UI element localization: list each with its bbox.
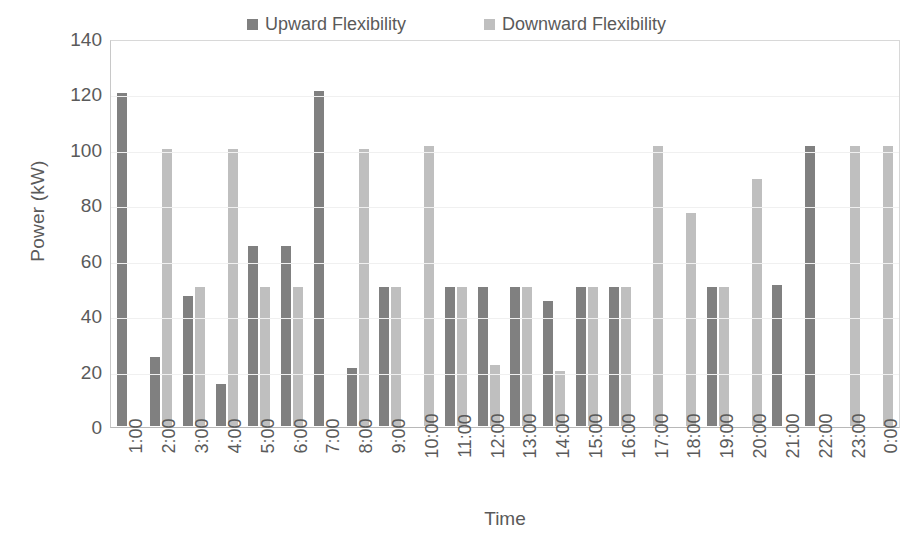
- bar-group: [210, 41, 243, 426]
- bar-groups: [112, 41, 898, 426]
- x-axis-tick-label: 6:00: [292, 418, 310, 453]
- legend-label: Downward Flexibility: [502, 14, 666, 35]
- bar: [248, 246, 258, 426]
- x-axis-tick-cell: 16:00: [603, 430, 636, 500]
- x-axis-tick-cell: 7:00: [308, 430, 341, 500]
- y-axis-tick-label: 100: [56, 140, 102, 162]
- bar: [379, 287, 389, 426]
- x-axis-tick-cell: 3:00: [177, 430, 210, 500]
- bar: [621, 287, 631, 426]
- bar-group: [145, 41, 178, 426]
- bar-group: [374, 41, 407, 426]
- bar: [478, 287, 488, 426]
- x-axis-tick-cell: 23:00: [833, 430, 866, 500]
- x-axis-tick-cell: 22:00: [800, 430, 833, 500]
- bar-group: [702, 41, 735, 426]
- bar: [391, 287, 401, 426]
- bar-group: [505, 41, 538, 426]
- bar: [510, 287, 520, 426]
- x-axis-tick-cell: 19:00: [702, 430, 735, 500]
- bar: [228, 149, 238, 426]
- legend-label: Upward Flexibility: [265, 14, 406, 35]
- bar-group: [636, 41, 669, 426]
- x-axis-tick-cell: 5:00: [242, 430, 275, 500]
- bar: [117, 93, 127, 426]
- x-axis-tick-cell: 20:00: [735, 430, 768, 500]
- bar-group: [538, 41, 571, 426]
- gridline: [111, 374, 899, 375]
- x-axis-tick-cell: 12:00: [472, 430, 505, 500]
- y-axis-tick-label: 140: [56, 29, 102, 51]
- bar: [686, 213, 696, 426]
- x-axis-tick-label: 21:00: [784, 413, 802, 458]
- bar: [195, 287, 205, 426]
- bar-group: [833, 41, 866, 426]
- y-axis-title: Power (kW): [27, 111, 49, 311]
- bar: [457, 287, 467, 426]
- x-axis-tick-cell: 21:00: [768, 430, 801, 500]
- bar: [314, 91, 324, 426]
- x-axis-tick-label: 9:00: [390, 418, 408, 453]
- x-axis-tick-label: 23:00: [850, 413, 868, 458]
- bar: [772, 285, 782, 426]
- x-axis-tick-cell: 18:00: [669, 430, 702, 500]
- x-axis-tick-label: 15:00: [587, 413, 605, 458]
- y-axis-tick-label: 40: [56, 306, 102, 328]
- y-axis-tick-label: 0: [56, 417, 102, 439]
- bar: [609, 287, 619, 426]
- x-axis-tick-cell: 4:00: [209, 430, 242, 500]
- gridline: [111, 263, 899, 264]
- x-axis-tick-label: 18:00: [685, 413, 703, 458]
- x-axis-tick-label: 22:00: [817, 413, 835, 458]
- bar: [260, 287, 270, 426]
- bar: [576, 287, 586, 426]
- bar: [883, 146, 893, 426]
- x-axis-tick-cell: 1:00: [111, 430, 144, 500]
- x-axis-tick-cell: 17:00: [636, 430, 669, 500]
- bar: [162, 149, 172, 426]
- x-axis-tick-label: 0:00: [882, 418, 900, 453]
- bar: [850, 146, 860, 426]
- x-axis-tick-cell: 15:00: [571, 430, 604, 500]
- bar-group: [865, 41, 898, 426]
- bar-group: [800, 41, 833, 426]
- gridline: [111, 318, 899, 319]
- y-axis-tick-label: 80: [56, 195, 102, 217]
- bar: [445, 287, 455, 426]
- bar: [805, 146, 815, 426]
- y-axis-tick-label: 60: [56, 251, 102, 273]
- bar: [281, 246, 291, 426]
- bar-group: [571, 41, 604, 426]
- gridline: [111, 207, 899, 208]
- x-axis-tick-label: 17:00: [653, 413, 671, 458]
- x-axis-tick-label: 4:00: [226, 418, 244, 453]
- legend-swatch-icon: [484, 19, 495, 30]
- x-axis-tick-cell: 13:00: [505, 430, 538, 500]
- x-axis-tick-cell: 11:00: [439, 430, 472, 500]
- bar-group: [112, 41, 145, 426]
- y-axis-tick-labels: 020406080100120140: [56, 40, 102, 428]
- x-axis-tick-label: 3:00: [193, 418, 211, 453]
- x-axis-tick-cell: 10:00: [406, 430, 439, 500]
- x-axis-tick-label: 7:00: [324, 418, 342, 453]
- x-axis-tick-label: 16:00: [620, 413, 638, 458]
- legend-item: Upward Flexibility: [247, 14, 406, 35]
- x-axis-tick-cell: 0:00: [866, 430, 899, 500]
- x-axis-title: Time: [110, 508, 900, 530]
- bar: [543, 301, 553, 426]
- bar-group: [243, 41, 276, 426]
- x-axis-tick-label: 2:00: [160, 418, 178, 453]
- x-axis-tick-cell: 2:00: [144, 430, 177, 500]
- x-axis-tick-label: 19:00: [718, 413, 736, 458]
- legend-swatch-icon: [247, 19, 258, 30]
- y-axis-tick-label: 20: [56, 362, 102, 384]
- x-axis-tick-label: 1:00: [127, 418, 145, 453]
- bar-group: [603, 41, 636, 426]
- x-axis-tick-label: 12:00: [489, 413, 507, 458]
- bar: [653, 146, 663, 426]
- x-axis-tick-cell: 6:00: [275, 430, 308, 500]
- bar-group: [734, 41, 767, 426]
- bar: [522, 287, 532, 426]
- x-axis-tick-label: 13:00: [521, 413, 539, 458]
- bar: [293, 287, 303, 426]
